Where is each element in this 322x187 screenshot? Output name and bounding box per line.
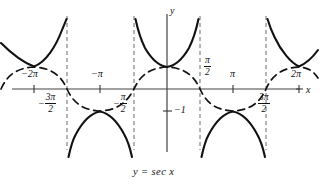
secant-branch-negpi [69,112,133,158]
secant-curve [1,19,318,157]
secant-branch-2pi [268,19,319,67]
x-tick-label-neg-3pi-over-2: − 3π 2 [38,93,56,114]
fraction-3pi-2: 3π 2 [45,93,57,114]
x-tick-label-2pi: 2π [291,69,301,79]
fraction-numerator: 3π [258,93,270,103]
fraction-denominator: 2 [45,105,57,115]
fraction-numerator: π [204,56,211,66]
fraction-3pi-2-right: 3π 2 [258,93,270,114]
x-tick-label-pi-over-2: π 2 [204,56,211,77]
secant-branch-neg2pi [1,19,67,67]
y-tick-label-neg-1: −1 [174,105,186,115]
x-tick-label-3pi-over-2: 3π 2 [258,93,270,114]
y-axis-label: y [170,6,174,16]
x-tick-label-pi: π [230,69,235,79]
fraction-denominator: 2 [120,105,127,115]
x-tick-label-neg-pi: −π [91,69,103,79]
secant-branch-pi [202,112,266,158]
x-tick-label-neg-2pi: −2π [21,69,38,79]
x-axis-label: x [306,85,310,95]
x-tick-label-neg-pi-over-2: − π 2 [113,93,127,114]
neg-sign-1: − [38,99,45,109]
fraction-pi-2-right: π 2 [204,56,211,77]
fraction-denominator: 2 [204,68,211,78]
neg-sign-2: − [113,99,120,109]
sec-x-graph-figure: y x −2π −π π 2π −1 − 3π 2 − π 2 π 2 [0,0,322,187]
fraction-numerator: 3π [45,93,57,103]
figure-caption: y = sec x [133,167,174,178]
fraction-denominator: 2 [258,105,270,115]
fraction-pi-2-left: π 2 [120,93,127,114]
fraction-numerator: π [120,93,127,103]
